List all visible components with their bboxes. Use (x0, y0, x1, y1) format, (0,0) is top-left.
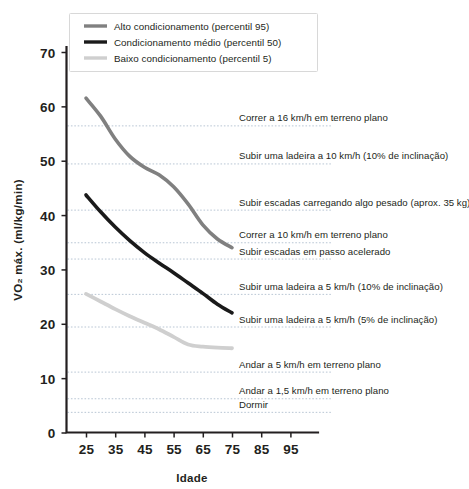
legend-item-label: Alto condicionamento (percentil 95) (114, 21, 269, 32)
y-tick-label: 50 (40, 154, 55, 169)
x-tick-label: 35 (108, 442, 124, 457)
annotation-label: Subir uma ladeira a 10 km/h (10% de incl… (239, 150, 448, 161)
legend-item-label: Condicionamento médio (percentil 50) (114, 37, 281, 48)
x-axis-title: Idade (176, 472, 208, 484)
annotation-label: Andar a 1,5 km/h em terreno plano (239, 385, 389, 396)
y-tick-label: 20 (40, 317, 55, 332)
series-line (86, 294, 232, 348)
y-tick-label: 70 (40, 46, 55, 61)
x-tick-label: 75 (225, 442, 241, 457)
x-tick-label: 85 (254, 442, 270, 457)
annotation-label: Correr a 10 km/h em terreno plano (239, 229, 388, 240)
annotation-label: Subir uma ladeira a 5 km/h (5% de inclin… (239, 314, 438, 325)
chart-legend: Alto condicionamento (percentil 95)Condi… (70, 14, 318, 72)
legend-item-label: Baixo condicionamento (percentil 5) (114, 53, 272, 64)
annotation-label: Andar a 5 km/h em terreno plano (239, 359, 381, 370)
series-line (86, 195, 232, 313)
x-tick-label: 95 (283, 442, 299, 457)
annotation-label: Subir escadas em passo acelerado (239, 246, 390, 257)
annotation-label: Subir uma ladeira a 5 km/h (10% de incli… (239, 281, 443, 292)
annotation-label: Subir escadas carregando algo pesado (ap… (239, 197, 469, 208)
y-tick-label: 60 (40, 100, 55, 115)
annotation-label: Correr a 16 km/h em terreno plano (239, 112, 388, 123)
y-tick-label: 10 (40, 372, 55, 387)
series-line (86, 98, 232, 247)
y-axis-ticks: 010203040506070 (40, 46, 66, 442)
x-tick-label: 55 (166, 442, 182, 457)
data-series-group (86, 98, 232, 348)
y-tick-label: 40 (40, 209, 55, 224)
chart-canvas: 010203040506070 2535455565758595 VO₂ máx… (0, 0, 469, 489)
y-tick-label: 0 (48, 426, 56, 441)
vo2max-chart: 010203040506070 2535455565758595 VO₂ máx… (0, 0, 469, 489)
x-axis-ticks: 2535455565758595 (79, 433, 299, 457)
y-axis-title: VO₂ máx. (ml/kg/min) (12, 179, 24, 301)
y-tick-label: 30 (40, 263, 55, 278)
annotation-labels-group: Correr a 16 km/h em terreno planoSubir u… (239, 112, 469, 409)
annotation-label: Dormir (239, 399, 269, 410)
x-tick-label: 25 (79, 442, 95, 457)
x-tick-label: 65 (196, 442, 212, 457)
x-tick-label: 45 (137, 442, 153, 457)
